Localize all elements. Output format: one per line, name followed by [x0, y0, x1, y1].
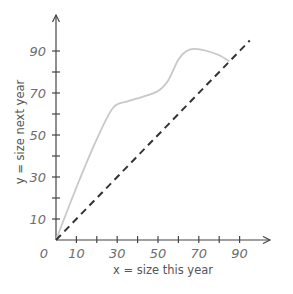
x-tick-label: 70	[191, 246, 208, 261]
y-tick-labels: 1030507090	[29, 44, 46, 227]
x-tick-label: 90	[231, 246, 248, 261]
x-tick-label: 10	[68, 246, 85, 261]
series-growth-curve	[56, 49, 229, 240]
series-group	[56, 41, 250, 241]
series-identity-line	[56, 41, 250, 241]
chart: 1030507090 1030507090 0 x = size this ye…	[0, 0, 293, 294]
x-tick-label: 30	[109, 246, 126, 261]
x-tick-labels: 1030507090	[68, 246, 248, 261]
y-tick-label: 30	[29, 170, 46, 185]
y-tick-label: 90	[29, 44, 46, 59]
x-tick-label: 50	[150, 246, 167, 261]
x-axis-label: x = size this year	[113, 263, 213, 277]
origin-label: 0	[40, 246, 48, 261]
y-tick-label: 10	[29, 212, 46, 227]
y-tick-label: 70	[29, 86, 46, 101]
y-axis-label: y = size next year	[13, 79, 27, 184]
y-tick-label: 50	[29, 128, 46, 143]
